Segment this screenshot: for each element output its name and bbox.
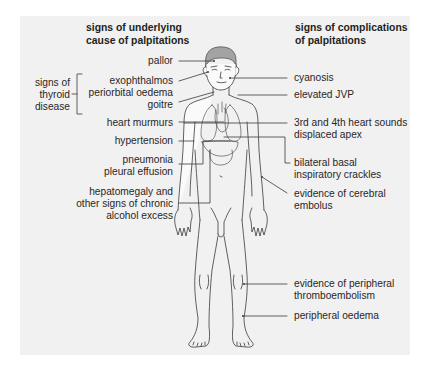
- label-heart-sounds-line1: 3rd and 4th heart sounds: [294, 117, 407, 129]
- label-heart-sounds: 3rd and 4th heart sounds displaced apex: [294, 117, 407, 141]
- label-displaced-apex: displaced apex: [294, 129, 407, 141]
- label-pneumonia: pneumonia pleural effusion: [60, 154, 173, 178]
- label-thrombo-line1: evidence of peripheral: [294, 278, 394, 290]
- label-hepatomegaly-line2: other signs of chronic: [40, 198, 173, 210]
- label-periorbital-oedema: periorbital oedema: [60, 87, 173, 99]
- label-exophthalmos: exophthalmos: [60, 75, 173, 87]
- label-crackles: bilateral basal inspiratory crackles: [294, 157, 381, 181]
- label-goitre-text: goitre: [60, 99, 173, 111]
- label-peripheral-oedema: peripheral oedema: [294, 310, 379, 322]
- label-cerebral-line2: embolus: [294, 200, 386, 212]
- label-crackles-line2: inspiratory crackles: [294, 169, 381, 181]
- label-pallor: pallor: [60, 55, 173, 67]
- label-thyroid-group: signs of thyroid disease: [26, 77, 70, 113]
- label-thyroid-line2: thyroid: [26, 89, 70, 101]
- label-thromboembolism: evidence of peripheral thromboembolism: [294, 278, 394, 302]
- label-cyanosis: cyanosis: [294, 72, 334, 84]
- label-cyanosis-text: cyanosis: [294, 72, 334, 84]
- label-hepatomegaly: hepatomegaly and other signs of chronic …: [40, 186, 173, 222]
- label-goitre: goitre: [60, 99, 173, 111]
- label-thyroid-line1: signs of: [26, 77, 70, 89]
- label-pleural-effusion: pleural effusion: [60, 166, 173, 178]
- label-eye-signs: exophthalmos periorbital oedema: [60, 75, 173, 99]
- label-pneumonia-text: pneumonia: [60, 154, 173, 166]
- label-hypertension-text: hypertension: [60, 135, 173, 147]
- label-elevated-jvp-text: elevated JVP: [294, 89, 354, 101]
- label-thyroid-line3: disease: [26, 101, 70, 113]
- label-pallor-text: pallor: [60, 55, 173, 67]
- label-cerebral-embolus: evidence of cerebral embolus: [294, 188, 386, 212]
- label-heart-murmurs-text: heart murmurs: [60, 117, 173, 129]
- label-thrombo-line2: thromboembolism: [294, 290, 394, 302]
- label-hypertension: hypertension: [60, 135, 173, 147]
- label-crackles-line1: bilateral basal: [294, 157, 381, 169]
- label-hepatomegaly-line1: hepatomegaly and: [40, 186, 173, 198]
- label-hepatomegaly-line3: alcohol excess: [40, 210, 173, 222]
- label-elevated-jvp: elevated JVP: [294, 89, 354, 101]
- label-cerebral-line1: evidence of cerebral: [294, 188, 386, 200]
- label-peripheral-oedema-text: peripheral oedema: [294, 310, 379, 322]
- label-heart-murmurs: heart murmurs: [60, 117, 173, 129]
